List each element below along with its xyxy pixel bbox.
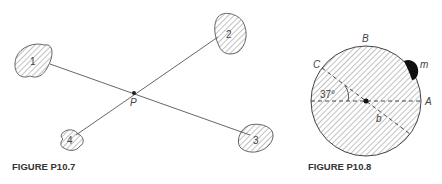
point-p-label: P [130, 97, 137, 108]
angle-label: 37° [320, 89, 335, 100]
line-1-3 [50, 64, 250, 135]
radius-label: b [376, 113, 382, 124]
body-3-label: 3 [253, 135, 259, 146]
caption-p10-7: FIGURE P10.7 [12, 161, 75, 172]
center-pivot [364, 99, 369, 104]
mass-label: m [420, 59, 428, 70]
body-1-label: 1 [30, 56, 36, 67]
label-c: C [313, 59, 321, 70]
body-4-label: 4 [67, 135, 73, 146]
figure-p10-8: 37° m B C A b FIGURE P10.8 [308, 33, 432, 172]
label-a: A [424, 96, 432, 107]
label-b-top: B [362, 33, 369, 44]
figure-canvas: 1 2 3 4 P FIGURE P10.7 37° m B C A b FIG… [0, 0, 442, 184]
point-p-dot [132, 91, 136, 95]
figure-p10-7: 1 2 3 4 P FIGURE P10.7 [12, 13, 273, 172]
line-2-4 [76, 37, 218, 135]
caption-p10-8: FIGURE P10.8 [308, 161, 371, 172]
body-2-label: 2 [226, 29, 232, 40]
